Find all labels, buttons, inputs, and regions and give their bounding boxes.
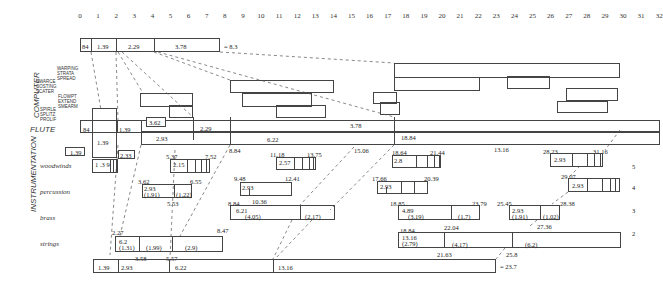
connector <box>91 52 101 110</box>
connector <box>180 145 230 236</box>
connector <box>154 52 230 80</box>
connector <box>170 150 175 258</box>
connector <box>300 147 354 205</box>
connector <box>118 52 143 93</box>
connector <box>552 192 568 204</box>
connector <box>605 130 620 150</box>
connector <box>330 145 394 210</box>
connector <box>273 220 292 259</box>
connector <box>220 52 394 63</box>
connector <box>158 52 394 117</box>
connector <box>568 166 580 178</box>
connector <box>116 52 118 120</box>
connector <box>110 145 118 255</box>
connector <box>275 220 312 259</box>
connector <box>496 248 505 259</box>
connector <box>530 220 537 226</box>
connector <box>120 145 141 236</box>
connector <box>122 52 194 118</box>
